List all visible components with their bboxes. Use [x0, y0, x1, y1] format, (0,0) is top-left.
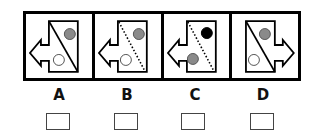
option-label-a: A — [44, 86, 74, 104]
option-panel-d[interactable] — [232, 14, 298, 78]
option-panel-a[interactable] — [26, 14, 95, 78]
checkbox-d[interactable] — [250, 113, 274, 130]
option-label-d: D — [248, 86, 278, 104]
checkbox-b[interactable] — [114, 113, 138, 130]
figure-d-icon — [232, 14, 298, 78]
option-label-c: C — [180, 86, 210, 104]
checkbox-c[interactable] — [181, 113, 205, 130]
figure-b-icon — [95, 14, 161, 78]
checkbox-a[interactable] — [46, 113, 70, 130]
figure-a-icon — [26, 14, 92, 78]
option-label-b: B — [112, 86, 142, 104]
option-panel-c[interactable] — [164, 14, 233, 78]
option-panel-b[interactable] — [95, 14, 164, 78]
figure-c-icon — [164, 14, 230, 78]
answer-options-frame — [23, 11, 301, 81]
